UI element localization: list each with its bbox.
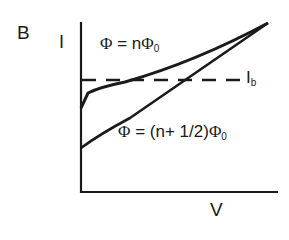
- phi-symbol: Φ: [141, 34, 153, 53]
- panel-label: B: [17, 23, 30, 42]
- y-axis-label: I: [59, 33, 64, 51]
- phi-symbol: Φ: [209, 122, 221, 141]
- half-flux-label: Φ = (n+ 1/2)Φ0: [118, 123, 227, 142]
- phi-symbol: Φ: [118, 122, 130, 141]
- integer-flux-label: Φ = nΦ0: [100, 35, 159, 54]
- x-axis-label: V: [210, 200, 223, 219]
- phi-symbol: Φ: [100, 34, 112, 53]
- bias-current-label: Ib: [246, 69, 256, 88]
